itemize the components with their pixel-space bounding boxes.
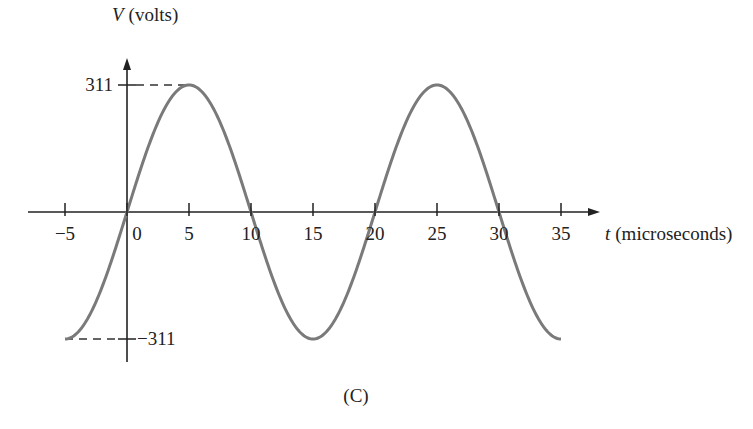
x-tick-label: 35	[552, 223, 571, 244]
x-axis-unit: (microseconds)	[615, 223, 732, 245]
y-tick-label: 311	[85, 74, 113, 95]
x-axis-label: t(microseconds)	[605, 223, 732, 245]
y-tick-label: −311	[137, 328, 176, 349]
x-axis-arrow-icon	[588, 208, 600, 216]
y-axis-unit: (volts)	[129, 4, 179, 26]
chart: −505101520253035311−311 V(volts) t(micro…	[0, 0, 753, 429]
y-axis-label: V(volts)	[112, 4, 178, 26]
figure-caption: (C)	[343, 385, 368, 407]
y-axis-arrow-icon	[123, 58, 131, 70]
x-tick-label: −5	[55, 223, 75, 244]
x-tick-label: 15	[304, 223, 323, 244]
x-tick-label: 30	[490, 223, 509, 244]
x-tick-label: 20	[366, 223, 385, 244]
x-tick-label: 0	[132, 223, 142, 244]
x-tick-label: 25	[428, 223, 447, 244]
x-tick-label: 10	[242, 223, 261, 244]
x-tick-label: 5	[184, 223, 194, 244]
